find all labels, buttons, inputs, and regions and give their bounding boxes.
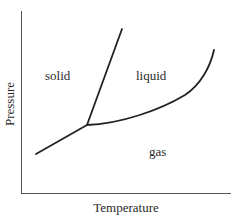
sublimation-curve [36,125,87,154]
region-label-liquid: liquid [136,68,167,83]
melting-curve [87,29,122,125]
phase-diagram: solid liquid gas Temperature Pressure [0,0,241,218]
y-axis-label: Pressure [2,82,17,126]
region-label-gas: gas [149,144,166,159]
x-axis-label: Temperature [93,200,159,215]
region-label-solid: solid [45,68,71,83]
vaporization-curve [87,50,214,125]
